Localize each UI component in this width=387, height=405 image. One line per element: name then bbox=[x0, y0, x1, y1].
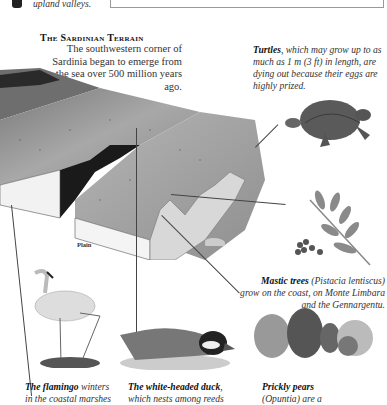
mastic-caption: Mastic trees (Pistacia lentiscus) grow o… bbox=[240, 275, 385, 311]
turtles-caption-bold: Turtles bbox=[253, 44, 281, 55]
turtle-illustration bbox=[285, 95, 385, 155]
plant-legend-box: Strawberry tree Wild cistus flowers bbox=[110, 0, 384, 8]
mastic-caption-bold: Mastic trees bbox=[261, 275, 309, 286]
plain-label: Plain bbox=[77, 241, 91, 248]
leader-line-duck bbox=[136, 128, 137, 338]
terrain-block-diagram bbox=[0, 60, 270, 260]
sea-rocks bbox=[205, 238, 225, 246]
upland-valleys-caption: upland valleys. bbox=[33, 0, 91, 10]
mastic-tree-illustration bbox=[290, 190, 385, 270]
flamingo-illustration bbox=[25, 268, 105, 368]
duck-caption-bold: The white-headed duck bbox=[128, 381, 220, 392]
prickly-caption: Prickly pears (Opuntia) are a bbox=[262, 381, 352, 405]
turtles-caption: Turtles, which may grow up to as much as… bbox=[253, 44, 385, 92]
prickly-caption-text: (Opuntia) are a bbox=[262, 393, 322, 404]
duck-caption: The white-headed duck, which nests among… bbox=[128, 381, 238, 405]
prickly-pear-illustration bbox=[250, 308, 375, 358]
legend-item-cistus: Wild cistus flowers bbox=[301, 0, 355, 1]
duck-illustration bbox=[115, 325, 235, 370]
legend-item-strawberry-tree: Strawberry tree bbox=[214, 0, 257, 1]
top-left-plant-icon bbox=[12, 0, 22, 8]
prickly-caption-bold: Prickly pears bbox=[262, 381, 314, 392]
flamingo-caption-bold: The flamingo bbox=[25, 381, 79, 392]
section-title: The Sardinian Terrain bbox=[40, 32, 144, 43]
flamingo-caption: The flamingo winters in the coastal mars… bbox=[25, 381, 115, 405]
